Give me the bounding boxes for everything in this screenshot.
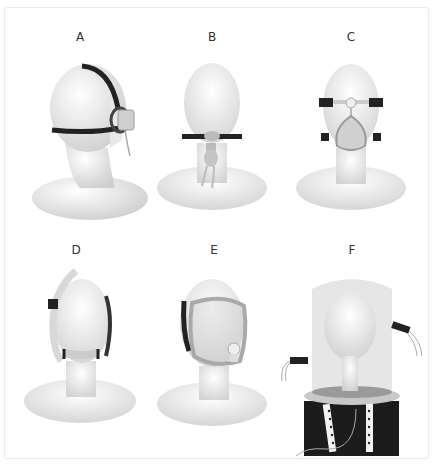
oral-interface-illustration <box>142 48 282 228</box>
panel-a: A <box>10 30 150 250</box>
panel-label-a: A <box>10 30 150 44</box>
panel-label-d: D <box>6 243 146 257</box>
panel-d: D <box>6 243 146 463</box>
nasal-cushion-tubing-illustration <box>6 261 146 451</box>
panel-label-e: E <box>144 243 284 257</box>
nasal-mask-illustration <box>10 48 150 228</box>
panel-label-c: C <box>281 30 421 44</box>
helmet-illustration <box>276 261 426 461</box>
panel-e: E <box>144 243 284 463</box>
full-face-mask-illustration <box>281 48 421 228</box>
panel-label-b: B <box>142 30 282 44</box>
panel-c: C <box>281 30 421 250</box>
panel-b: B <box>142 30 282 250</box>
panel-f: F <box>282 243 432 463</box>
panel-label-f: F <box>282 243 422 257</box>
total-face-mask-illustration <box>144 261 284 451</box>
